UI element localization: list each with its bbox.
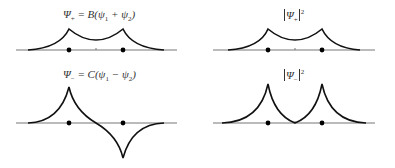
psi-symbol: Ψ [63,68,71,80]
panel-psi-minus-squared [213,84,375,125]
wavefunction-diagram [0,0,395,168]
nucleus-dot-right [121,48,126,53]
psi-plus-squared-curve [228,29,360,50]
panel-psi-plus-squared [213,29,375,52]
psi-minus-squared-label: Ψ−2 [283,68,304,84]
psi-symbol: Ψ [63,8,71,20]
psi-plus-equation: Ψ+ = B(ψ1 + ψ2) [63,8,135,23]
equation-text: ) [132,68,136,80]
nucleus-dot-left [266,48,271,53]
psi-symbol: Ψ [286,9,294,21]
psi-plus-curve [28,29,164,50]
psi-minus-squared-curve [222,84,366,123]
psi-symbol: Ψ [286,69,294,81]
nucleus-dot-left [67,121,72,126]
subscript: − [294,76,298,84]
nucleus-dot-left [266,121,271,126]
exponent: 2 [301,8,305,16]
exponent: 2 [301,68,305,76]
equation-text: − ψ [109,68,129,80]
equation-text: = B(ψ [75,8,105,20]
psi-minus-equation: Ψ− = C(ψ1 − ψ2) [63,68,136,83]
equation-text: = C(ψ [75,68,106,80]
subscript: + [294,16,298,24]
panel-psi-minus [16,87,177,158]
nucleus-dot-left [67,48,72,53]
psi-plus-squared-label: Ψ+2 [283,8,304,24]
equation-text: ) [132,8,136,20]
equation-text: + ψ [108,8,128,20]
nucleus-dot-right [121,121,126,126]
nucleus-dot-right [320,121,325,126]
nucleus-dot-right [320,48,325,53]
panel-psi-plus [16,29,177,52]
